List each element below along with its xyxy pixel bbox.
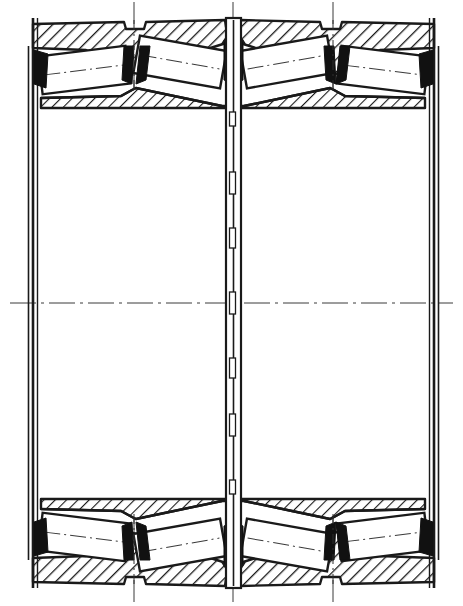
cage-lr-inner-left [324, 522, 336, 560]
break-mark-3 [230, 228, 236, 248]
break-mark-2 [230, 172, 236, 194]
cage-ul-inner-left [122, 46, 134, 84]
cage-u-far-right [419, 50, 433, 88]
break-mark-7 [230, 480, 236, 494]
drawing-canvas [0, 0, 463, 606]
cage-l-far-right [419, 518, 433, 556]
break-mark-6 [230, 414, 236, 436]
cage-ur-inner-left [324, 46, 336, 84]
cage-u-far-left [34, 50, 48, 88]
break-mark-5 [230, 358, 236, 378]
cage-l-far-left [34, 518, 48, 556]
break-mark-1 [230, 112, 236, 126]
center-spacer [226, 18, 241, 588]
break-mark-4 [230, 292, 236, 314]
bearing-cross-section-drawing [0, 0, 463, 606]
cage-ll-inner-left [122, 522, 134, 560]
